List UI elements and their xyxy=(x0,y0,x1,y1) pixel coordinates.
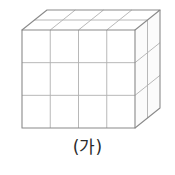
figure-container: (가) xyxy=(0,0,175,175)
figure-caption: (가) xyxy=(0,136,175,158)
face-fills xyxy=(22,10,160,128)
